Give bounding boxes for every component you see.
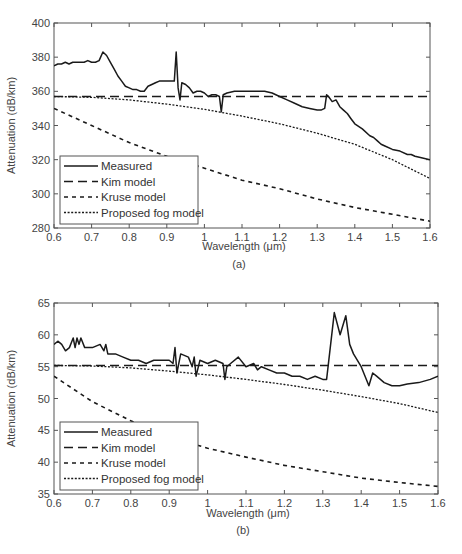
x-tick-label: 1.5 xyxy=(385,231,400,243)
y-axis-label: Attenuation (dB/km) xyxy=(5,77,17,174)
series-measured xyxy=(54,52,430,160)
y-tick-label: 400 xyxy=(32,17,50,29)
y-tick-label: 300 xyxy=(32,188,50,200)
y-tick-label: 40 xyxy=(38,456,50,468)
y-tick-label: 45 xyxy=(38,424,50,436)
y-tick-label: 50 xyxy=(38,393,50,405)
y-tick-label: 65 xyxy=(38,297,50,309)
y-tick-label: 55 xyxy=(38,361,50,373)
x-tick-label: 0.7 xyxy=(84,231,99,243)
series-measured xyxy=(54,313,438,386)
x-tick-label: 0.8 xyxy=(123,497,138,509)
y-axis-label: Attenuation (dB/km) xyxy=(5,350,17,447)
legend-entry: Proposed fog model xyxy=(101,473,204,485)
figure-caption: (a) xyxy=(232,258,245,270)
y-tick-label: 380 xyxy=(32,51,50,63)
y-tick-label: 340 xyxy=(32,120,50,132)
legend-entry: Measured xyxy=(101,160,152,172)
x-tick-label: 1.5 xyxy=(392,497,407,509)
y-tick-label: 280 xyxy=(32,222,50,234)
legend-entry: Kruse model xyxy=(101,457,166,469)
x-tick-label: 1.4 xyxy=(347,231,362,243)
legend-entry: Kim model xyxy=(101,442,155,454)
legend: MeasuredKim modelKruse modelProposed fog… xyxy=(60,422,204,490)
x-tick-label: 1.6 xyxy=(430,497,445,509)
x-tick-label: 1.4 xyxy=(354,497,369,509)
x-axis-label: Wavelength (μm) xyxy=(202,240,286,252)
y-tick-label: 35 xyxy=(38,488,50,500)
x-tick-label: 0.7 xyxy=(85,497,100,509)
y-tick-label: 360 xyxy=(32,85,50,97)
chart-b: 0.60.70.80.911.11.21.31.41.51.6354045505… xyxy=(5,297,446,536)
x-tick-label: 0.9 xyxy=(162,497,177,509)
chart-figure: 0.60.70.80.911.11.21.31.41.51.6280300320… xyxy=(0,0,462,554)
figure-caption: (b) xyxy=(236,524,249,536)
x-tick-label: 0.8 xyxy=(122,231,137,243)
legend-entry: Kim model xyxy=(101,176,155,188)
x-tick-label: 0.9 xyxy=(159,231,174,243)
x-axis-label: Wavelength (μm) xyxy=(206,507,290,519)
legend-entry: Kruse model xyxy=(101,191,166,203)
x-tick-label: 1.3 xyxy=(310,231,325,243)
y-tick-label: 320 xyxy=(32,154,50,166)
chart-a: 0.60.70.80.911.11.21.31.41.51.6280300320… xyxy=(5,17,438,270)
y-tick-label: 60 xyxy=(38,329,50,341)
x-tick-label: 1.3 xyxy=(315,497,330,509)
x-tick-label: 1.6 xyxy=(422,231,437,243)
legend-entry: Measured xyxy=(101,426,152,438)
series-proposed-fog-model xyxy=(54,365,438,412)
legend-entry: Proposed fog model xyxy=(101,207,204,219)
legend: MeasuredKim modelKruse modelProposed fog… xyxy=(60,156,204,224)
